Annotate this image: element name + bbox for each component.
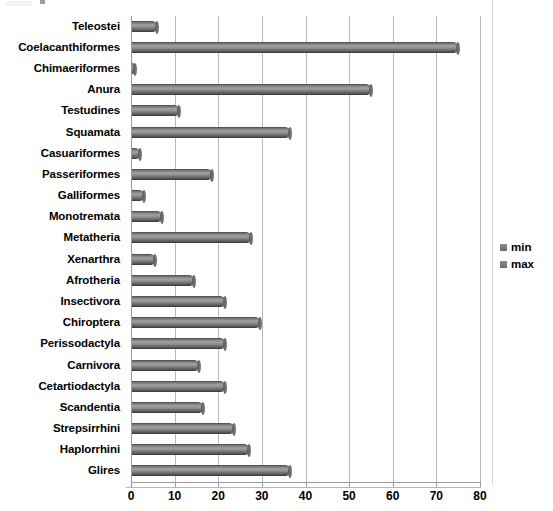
square-swatch-icon bbox=[500, 261, 507, 268]
bar-metatheria bbox=[131, 232, 251, 243]
legend-item-max[interactable]: max bbox=[500, 256, 550, 273]
category-label: Metatheria bbox=[0, 232, 120, 243]
gridline-70 bbox=[436, 16, 437, 482]
bar-end-cap bbox=[192, 275, 196, 288]
category-label: Passeriformes bbox=[0, 169, 120, 180]
category-label: Insectivora bbox=[0, 296, 120, 307]
bar-scandentia bbox=[131, 402, 203, 413]
bar-end-cap bbox=[288, 127, 292, 140]
bar-monotremata bbox=[131, 211, 162, 222]
category-label: Coelacanthiformes bbox=[0, 42, 120, 53]
legend-label: min bbox=[511, 242, 531, 253]
bar-passeriformes bbox=[131, 169, 212, 180]
x-tick-depth-60 bbox=[388, 487, 394, 488]
bar-end-cap bbox=[210, 169, 214, 182]
bar-insectivora bbox=[131, 296, 225, 307]
bar-chart: TeleosteiCoelacanthiformesChimaeriformes… bbox=[0, 0, 553, 511]
x-tick-depth-20 bbox=[213, 487, 219, 488]
bar-end-cap bbox=[223, 381, 227, 394]
bar-end-cap bbox=[133, 63, 137, 76]
bar-perissodactyla bbox=[131, 338, 225, 349]
x-tick-depth-40 bbox=[301, 487, 307, 488]
category-label: Xenarthra bbox=[0, 254, 120, 265]
category-label: Galliformes bbox=[0, 190, 120, 201]
category-label: Glires bbox=[0, 465, 120, 476]
category-label: Afrotheria bbox=[0, 275, 120, 286]
bar-teleostei bbox=[131, 21, 157, 32]
bar-end-cap bbox=[223, 296, 227, 309]
x-tick-label: 10 bbox=[160, 489, 190, 503]
category-axis-labels: TeleosteiCoelacanthiformesChimaeriformes… bbox=[0, 16, 126, 482]
square-swatch-icon bbox=[500, 244, 507, 251]
legend-label: max bbox=[511, 259, 534, 270]
bar-end-cap bbox=[155, 21, 159, 34]
gridline-80 bbox=[480, 16, 481, 482]
category-label: Chimaeriformes bbox=[0, 63, 120, 74]
legend-item-min[interactable]: min bbox=[500, 239, 550, 256]
bar-casuariformes bbox=[131, 148, 140, 159]
bar-end-cap bbox=[249, 232, 253, 245]
x-axis-tick-labels: 01020304050607080 bbox=[0, 489, 553, 509]
bar-end-cap bbox=[153, 254, 157, 267]
category-label: Anura bbox=[0, 84, 120, 95]
category-label: Carnivora bbox=[0, 360, 120, 371]
bar-end-cap bbox=[177, 105, 181, 118]
x-tick-label: 60 bbox=[378, 489, 408, 503]
category-label: Strepsirrhini bbox=[0, 423, 120, 434]
bar-squamata bbox=[131, 127, 290, 138]
x-tick-depth-50 bbox=[344, 487, 350, 488]
bar-xenarthra bbox=[131, 254, 155, 265]
bar-chiroptera bbox=[131, 317, 260, 328]
bar-end-cap bbox=[456, 42, 460, 55]
category-label: Scandentia bbox=[0, 402, 120, 413]
x-tick-label: 80 bbox=[465, 489, 495, 503]
category-label: Perissodactyla bbox=[0, 338, 120, 349]
bar-end-cap bbox=[369, 84, 373, 97]
category-label: Haplorrhini bbox=[0, 444, 120, 455]
bar-afrotheria bbox=[131, 275, 194, 286]
bar-anura bbox=[131, 84, 371, 95]
x-tick-depth-0 bbox=[126, 487, 132, 488]
x-tick-label: 20 bbox=[203, 489, 233, 503]
x-tick-depth-30 bbox=[257, 487, 263, 488]
category-label: Squamata bbox=[0, 127, 120, 138]
bar-end-cap bbox=[142, 190, 146, 203]
corner-artifact-marker bbox=[40, 0, 45, 4]
bar-cetartiodactyla bbox=[131, 381, 225, 392]
corner-artifact bbox=[6, 1, 32, 6]
x-tick-depth-80 bbox=[475, 487, 481, 488]
category-label: Chiroptera bbox=[0, 317, 120, 328]
x-tick-label: 70 bbox=[421, 489, 451, 503]
category-label: Cetartiodactyla bbox=[0, 381, 120, 392]
x-tick-label: 30 bbox=[247, 489, 277, 503]
gridline-60 bbox=[393, 16, 394, 482]
category-label: Testudines bbox=[0, 105, 120, 116]
bar-end-cap bbox=[197, 360, 201, 373]
chart-legend: minmax bbox=[500, 239, 550, 273]
x-tick-label: 50 bbox=[334, 489, 364, 503]
legend-divider bbox=[492, 0, 493, 485]
category-label: Teleostei bbox=[0, 21, 120, 32]
bar-glires bbox=[131, 465, 290, 476]
x-tick-depth-70 bbox=[431, 487, 437, 488]
x-tick-depth-10 bbox=[170, 487, 176, 488]
bar-end-cap bbox=[247, 444, 251, 457]
x-tick-label: 40 bbox=[291, 489, 321, 503]
bar-testudines bbox=[131, 105, 179, 116]
bar-end-cap bbox=[223, 338, 227, 351]
bar-end-cap bbox=[258, 317, 262, 330]
category-label: Casuariformes bbox=[0, 148, 120, 159]
y-axis-line bbox=[131, 16, 132, 483]
category-label: Monotremata bbox=[0, 211, 120, 222]
bar-end-cap bbox=[160, 211, 164, 224]
bar-carnivora bbox=[131, 360, 199, 371]
bar-coelacanthiformes bbox=[131, 42, 458, 53]
bar-end-cap bbox=[232, 423, 236, 436]
bar-end-cap bbox=[201, 402, 205, 415]
bar-end-cap bbox=[138, 148, 142, 161]
plot-area bbox=[131, 16, 480, 482]
bar-end-cap bbox=[288, 465, 292, 478]
bar-strepsirrhini bbox=[131, 423, 234, 434]
bar-galliformes bbox=[131, 190, 144, 201]
bar-haplorrhini bbox=[131, 444, 249, 455]
